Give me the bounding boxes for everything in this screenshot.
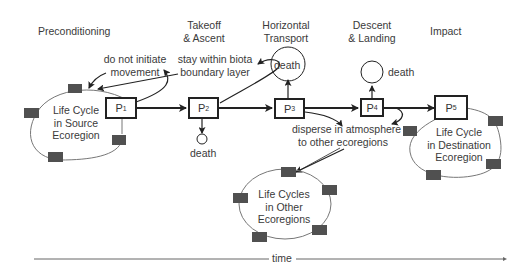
- stage-square: [24, 108, 39, 118]
- phase-box-p4: P4: [360, 98, 384, 117]
- stage-square: [48, 152, 63, 162]
- destination-cycle-label: Life Cycle in Destination Ecoregion: [424, 126, 494, 164]
- stage-square: [233, 193, 248, 203]
- stage-square: [112, 135, 126, 145]
- annotation-disperse: disperse in atmosphere to other ecoregio…: [292, 123, 394, 148]
- death-label-p4: death: [388, 66, 414, 79]
- phase-box-p5: P5: [434, 95, 468, 120]
- stage-horizontal-transport: Horizontal Transport: [256, 19, 316, 44]
- source-cycle-label: Life Cycle in Source Ecoregion: [48, 104, 104, 142]
- stage-square: [68, 84, 82, 93]
- death-label-p2: death: [190, 147, 216, 160]
- time-axis: [34, 257, 507, 261]
- stage-impact: Impact: [430, 25, 462, 38]
- stage-square: [312, 225, 327, 235]
- annotation-do-not-initiate: do not initiate movement: [102, 53, 168, 78]
- phase-box-p3: P3: [274, 98, 305, 119]
- other-cycle-label: Life Cycles in Other Ecoregions: [254, 188, 314, 226]
- stage-preconditioning: Preconditioning: [38, 25, 110, 38]
- time-axis-label: time: [272, 252, 292, 265]
- phase-box-p1: P1: [105, 97, 137, 119]
- stage-descent-landing: Descent & Landing: [344, 19, 400, 44]
- death-label-p3: death: [274, 59, 300, 72]
- phase-box-p2: P2: [188, 97, 219, 119]
- stage-square: [252, 232, 267, 242]
- stage-square: [322, 185, 337, 195]
- stage-square: [403, 126, 417, 136]
- stage-square: [281, 167, 296, 177]
- annotation-stay-within: stay within biota boundary layer: [175, 53, 255, 78]
- stage-square: [488, 116, 503, 126]
- stage-square: [426, 170, 441, 180]
- stage-takeoff: Takeoff & Ascent: [179, 19, 229, 44]
